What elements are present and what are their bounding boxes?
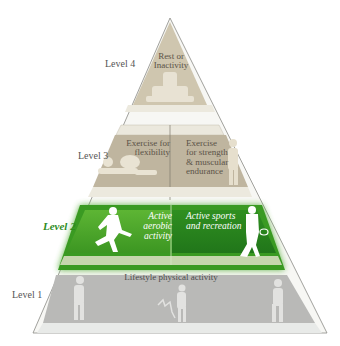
level-4-label: Level 4 bbox=[105, 58, 135, 69]
level-3-label: Level 3 bbox=[78, 150, 108, 161]
level-2-label: Level 2 bbox=[43, 220, 76, 232]
rest-inactivity-text: Rest or Inactivity bbox=[145, 52, 197, 71]
lifestyle-activity-text: Lifestyle physical activity bbox=[110, 273, 232, 282]
sports-recreation-text: Active sports and recreation bbox=[186, 212, 246, 232]
aerobic-activity-text: Active aerobic activity bbox=[118, 212, 172, 242]
activity-pyramid: Level 4 Level 3 Level 2 Level 1 Rest or … bbox=[0, 0, 340, 346]
strength-endurance-text: Exercise for strength & muscular enduran… bbox=[186, 139, 242, 177]
flexibility-text: Exercise for flexibility bbox=[116, 139, 170, 158]
level-1-label: Level 1 bbox=[12, 289, 42, 300]
